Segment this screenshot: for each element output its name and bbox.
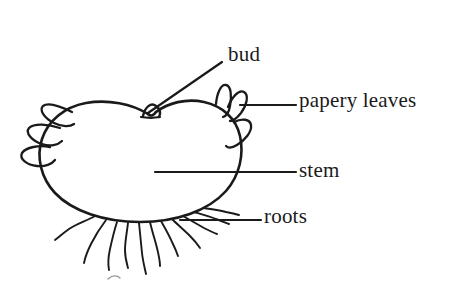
label-stem: stem (299, 160, 339, 181)
label-roots: roots (264, 206, 307, 227)
label-papery-leaves: papery leaves (299, 90, 416, 111)
figure-canvas: bud papery leaves stem roots (0, 0, 468, 283)
label-bud: bud (228, 44, 260, 65)
